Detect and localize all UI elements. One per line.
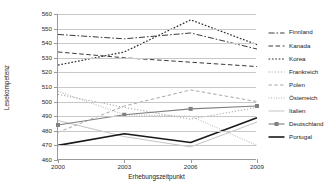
legend-item-italien[interactable]: Italien	[268, 105, 334, 118]
legend-line-swatch	[268, 80, 285, 90]
line-chart: Lesekompetenz 46047048049050051052053054…	[0, 0, 336, 192]
legend-label: Italien	[289, 108, 306, 114]
y-tick-label: 470	[42, 142, 52, 148]
y-tick-label: 510	[42, 84, 52, 90]
legend-line-swatch	[268, 28, 285, 38]
y-tick-mark	[54, 116, 58, 117]
legend-label: Deutschland	[289, 121, 323, 127]
legend-label: Korea	[289, 56, 306, 62]
gridline	[58, 145, 256, 146]
legend-item-sterreich[interactable]: Österreich	[268, 91, 334, 104]
legend-label: Kanada	[289, 43, 310, 49]
legend-line-swatch	[268, 54, 285, 64]
legend-item-portugal[interactable]: Portugal	[268, 131, 334, 144]
legend: FinnlandKanadaKoreaFrankreichPolenÖsterr…	[268, 26, 334, 144]
legend-line-swatch	[268, 41, 285, 51]
y-axis-title: Lesekompetenz	[2, 14, 12, 160]
gridline	[58, 29, 256, 30]
gridline	[58, 58, 256, 59]
gridline	[58, 43, 256, 44]
legend-line-swatch	[268, 132, 285, 142]
series-marker	[189, 107, 193, 111]
gridline	[58, 102, 256, 103]
y-tick-label: 560	[42, 11, 52, 17]
legend-line-swatch	[268, 93, 285, 103]
y-tick-mark	[54, 14, 58, 15]
gridline	[58, 14, 256, 15]
legend-item-finnland[interactable]: Finnland	[268, 26, 334, 39]
y-tick-mark	[54, 145, 58, 146]
x-tick-label: 2000	[51, 164, 65, 170]
y-tick-label: 540	[42, 40, 52, 46]
y-tick-label: 490	[42, 113, 52, 119]
series-marker	[56, 123, 60, 127]
y-tick-mark	[54, 58, 58, 59]
plot-area: 4604704804905005105205305405505602000200…	[57, 14, 256, 160]
legend-line-swatch	[268, 119, 285, 129]
y-tick-mark	[54, 131, 58, 132]
y-tick-mark	[54, 87, 58, 88]
series-line	[58, 52, 257, 67]
legend-item-frankreich[interactable]: Frankreich	[268, 65, 334, 78]
legend-label: Polen	[289, 82, 305, 88]
y-tick-label: 550	[42, 25, 52, 31]
series-marker	[255, 104, 259, 108]
x-tick-label: 2003	[117, 164, 131, 170]
legend-line-swatch	[268, 67, 285, 77]
series-line	[58, 90, 257, 132]
gridline	[58, 72, 256, 73]
y-tick-label: 480	[42, 128, 52, 134]
legend-label: Österreich	[289, 95, 318, 101]
series-line	[58, 33, 257, 49]
y-tick-mark	[54, 29, 58, 30]
x-tick-label: 2009	[250, 164, 264, 170]
legend-label: Frankreich	[289, 69, 318, 75]
y-tick-label: 500	[42, 98, 52, 104]
x-axis-title: Erhebungszeitpunkt	[57, 174, 256, 180]
y-tick-mark	[54, 72, 58, 73]
y-tick-label: 520	[42, 69, 52, 75]
legend-item-deutschland[interactable]: Deutschland	[268, 118, 334, 131]
y-tick-label: 530	[42, 55, 52, 61]
legend-item-korea[interactable]: Korea	[268, 52, 334, 65]
legend-line-swatch	[268, 106, 285, 116]
legend-label: Finnland	[289, 29, 313, 35]
gridline	[58, 87, 256, 88]
series-line	[58, 121, 257, 147]
legend-item-kanada[interactable]: Kanada	[268, 39, 334, 52]
y-tick-mark	[54, 102, 58, 103]
gridline	[58, 131, 256, 132]
legend-item-polen[interactable]: Polen	[268, 78, 334, 91]
legend-label: Portugal	[289, 134, 312, 140]
y-tick-mark	[54, 43, 58, 44]
x-tick-label: 2006	[184, 164, 198, 170]
gridline	[58, 116, 256, 117]
